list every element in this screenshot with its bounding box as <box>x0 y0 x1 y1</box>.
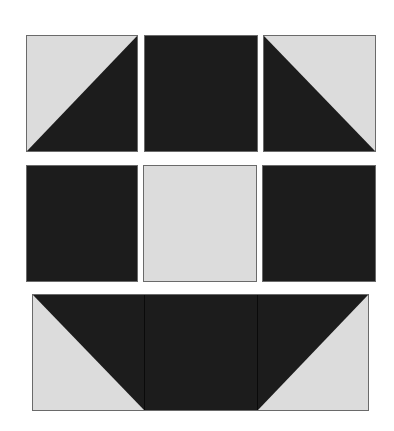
half-triangle-icon <box>33 295 144 410</box>
half-triangle-icon <box>27 36 137 151</box>
quilt-block-top-right <box>263 35 376 152</box>
quilt-block-top-center <box>144 35 258 152</box>
quilt-block-middle-center <box>143 165 257 282</box>
quilt-block-bottom-left <box>33 295 144 410</box>
quilt-bottom-strip <box>32 294 369 411</box>
half-triangle-icon <box>264 36 375 151</box>
quilt-block-middle-right <box>262 165 376 282</box>
quilt-block-top-left <box>26 35 138 152</box>
half-triangle-icon <box>258 295 368 410</box>
quilt-block-bottom-center <box>144 295 257 410</box>
quilt-block-middle-left <box>26 165 138 282</box>
quilt-block-bottom-right <box>257 295 368 410</box>
